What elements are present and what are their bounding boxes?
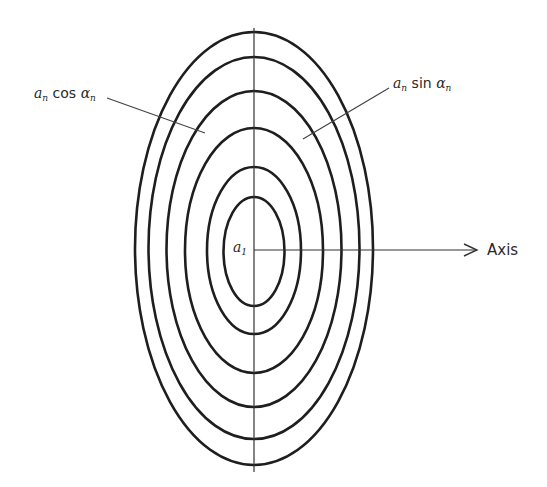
concentric-ellipses-diagram <box>0 0 547 487</box>
cos-component-label: an cos αn <box>34 86 96 100</box>
cos-function: cos <box>53 85 77 101</box>
sin-function: sin <box>412 75 432 91</box>
phase-symbol: α <box>436 75 445 91</box>
axis-label: Axis <box>487 243 518 258</box>
phase-symbol: α <box>81 85 90 101</box>
sin-component-label: an sin αn <box>393 76 451 90</box>
sin-leader-line <box>303 88 389 139</box>
center-label: a1 <box>233 240 247 254</box>
